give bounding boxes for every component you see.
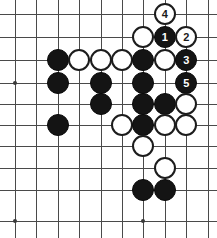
- star-point-1: [13, 219, 17, 223]
- white-move-4-label: 4: [162, 9, 168, 20]
- black-stone-c6r3[interactable]: [132, 72, 154, 94]
- black-stone-c6r8[interactable]: [132, 179, 154, 201]
- grid-line-horizontal-0: [0, 14, 217, 15]
- white-stone-c7r5[interactable]: [154, 114, 176, 136]
- white-stone-c8r4[interactable]: [175, 93, 197, 115]
- black-stone-c2r5[interactable]: [47, 114, 69, 136]
- white-move-4[interactable]: 4: [154, 3, 176, 25]
- black-move-5[interactable]: 5: [175, 72, 197, 94]
- white-stone-c7r7[interactable]: [154, 157, 176, 179]
- white-stone-c8r5[interactable]: [175, 114, 197, 136]
- star-point-0: [13, 81, 17, 85]
- go-board-diagram: 41235: [0, 0, 217, 238]
- star-point-2: [141, 219, 145, 223]
- grid-line-horizontal-6: [0, 146, 217, 147]
- black-stone-c6r2[interactable]: [132, 49, 154, 71]
- black-stone-c7r8[interactable]: [154, 179, 176, 201]
- white-stone-c3r2[interactable]: [68, 49, 90, 71]
- white-stone-c6r6[interactable]: [132, 135, 154, 157]
- black-move-1-label: 1: [162, 32, 168, 43]
- grid-line-vertical-9: [208, 0, 209, 238]
- black-stone-c2r2[interactable]: [47, 49, 69, 71]
- black-move-1[interactable]: 1: [154, 26, 176, 48]
- white-stone-c7r2[interactable]: [154, 49, 176, 71]
- white-move-2[interactable]: 2: [175, 26, 197, 48]
- black-stone-c4r3[interactable]: [90, 72, 112, 94]
- grid-line-vertical-3: [79, 0, 80, 238]
- white-stone-c5r2[interactable]: [111, 49, 133, 71]
- grid-line-vertical-1: [36, 0, 37, 238]
- go-board-surface[interactable]: 41235: [0, 0, 217, 238]
- white-move-2-label: 2: [183, 32, 189, 43]
- grid-line-horizontal-7: [0, 168, 217, 169]
- white-stone-c5r5[interactable]: [111, 114, 133, 136]
- black-move-5-label: 5: [183, 78, 189, 89]
- grid-line-vertical-4: [101, 0, 102, 238]
- grid-line-horizontal-9: [0, 221, 217, 222]
- black-stone-c2r3[interactable]: [47, 72, 69, 94]
- grid-line-vertical-0: [15, 0, 16, 238]
- white-stone-c6r1[interactable]: [132, 26, 154, 48]
- black-move-3[interactable]: 3: [175, 49, 197, 71]
- black-stone-c4r4[interactable]: [90, 93, 112, 115]
- black-stone-c7r4[interactable]: [154, 93, 176, 115]
- grid-line-horizontal-8: [0, 190, 217, 191]
- black-stone-c6r5[interactable]: [132, 114, 154, 136]
- black-move-3-label: 3: [183, 55, 189, 66]
- white-stone-c4r2[interactable]: [90, 49, 112, 71]
- black-stone-c6r4[interactable]: [132, 93, 154, 115]
